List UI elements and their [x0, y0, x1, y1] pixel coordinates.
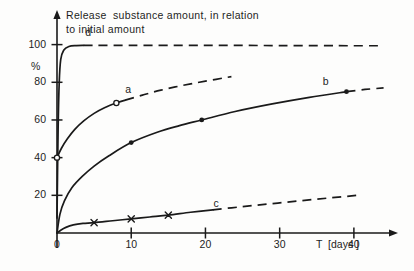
curve-a-dashed: [125, 77, 231, 101]
marker-b: [129, 140, 134, 145]
curve-label-c: c: [214, 197, 219, 209]
curve-b-dashed: [346, 88, 383, 92]
curve-label-b: b: [323, 75, 329, 87]
y-tick-label: 20: [18, 188, 46, 200]
curve-a-solid: [57, 100, 125, 157]
marker-b: [344, 89, 349, 94]
y-tick-label: 40: [18, 151, 46, 163]
curve-d-solid: [57, 45, 84, 218]
curve-label-d: d: [85, 26, 91, 38]
y-tick-label: 100: [18, 38, 46, 50]
marker-a: [54, 155, 59, 160]
y-axis-arrow: [53, 10, 60, 19]
x-tick-label: 10: [117, 238, 145, 250]
data-curves: [57, 45, 384, 233]
curve-c-dashed: [213, 195, 361, 210]
curve-label-a: a: [125, 83, 131, 95]
x-tick-label: 20: [191, 238, 219, 250]
curve-c-solid: [57, 210, 213, 233]
x-tick-label: 30: [266, 238, 294, 250]
x-tick-label: 40: [340, 238, 368, 250]
marker-a: [114, 100, 119, 105]
y-tick-label: 60: [18, 113, 46, 125]
x-axis-arrow: [389, 229, 398, 236]
chart-figure: Release substance amount, in relation to…: [0, 0, 414, 271]
x-tick-label: 0: [43, 238, 71, 250]
y-tick-label: 80: [18, 75, 46, 87]
plot-canvas: [0, 0, 414, 271]
marker-b: [199, 118, 204, 123]
